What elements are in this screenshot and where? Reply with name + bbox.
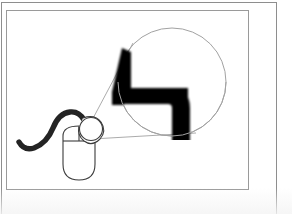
slide-canvas — [0, 0, 292, 214]
illustration-artwork — [0, 0, 292, 214]
scroll-wheel — [79, 117, 104, 144]
artwork-bottom-mask — [100, 140, 220, 160]
